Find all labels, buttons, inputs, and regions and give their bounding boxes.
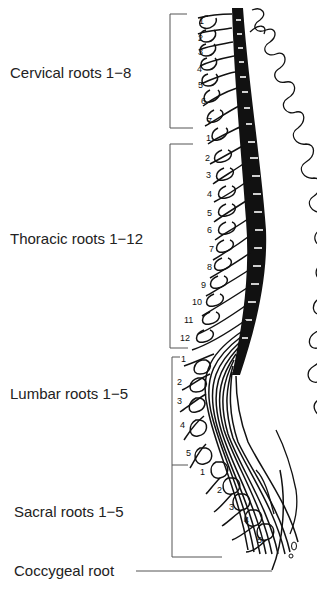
root-number: 3 [198, 47, 203, 57]
root-number: 4 [207, 189, 212, 199]
root-number: 2 [217, 485, 222, 495]
root-number: 10 [192, 297, 202, 307]
root-number: 2 [177, 377, 182, 387]
root-number: 5 [198, 80, 203, 90]
root-number: 12 [180, 333, 190, 343]
coccyx-oval [292, 542, 297, 550]
root-number: 2 [205, 153, 210, 163]
root-number: 9 [201, 280, 206, 290]
root-number: 1 [206, 133, 211, 143]
bracket-cervical [170, 14, 193, 128]
root-number: 6 [207, 225, 212, 235]
root-number: 11 [184, 315, 193, 325]
root-number: 1 [200, 467, 205, 477]
sacral-roots [206, 462, 274, 552]
spinal-cord-diagram: 1 2 3 4 5 6 7 1 2 3 4 5 6 7 8 9 10 11 12 [0, 0, 317, 589]
root-number: 3 [229, 502, 234, 512]
thoracic-root-numbers: 2 3 4 5 6 7 8 9 10 11 12 [180, 153, 214, 343]
root-number: 5 [207, 208, 212, 218]
root-number: 1 [199, 16, 204, 26]
root-number: 5 [186, 448, 191, 458]
root-number: 4 [197, 64, 202, 74]
root-number: 5 [257, 535, 262, 545]
cauda-equina [205, 330, 298, 554]
root-number: 3 [177, 396, 182, 406]
root-number: 4 [180, 420, 185, 430]
root-number: 7 [209, 244, 214, 254]
root-number: 7 [207, 116, 212, 126]
coccyx-dot [289, 554, 293, 558]
root-number: 3 [206, 170, 211, 180]
root-number: 8 [207, 262, 212, 272]
root-number: 1 [181, 354, 186, 364]
root-number: 2 [198, 33, 203, 43]
root-number: 4 [244, 515, 249, 525]
root-number: 6 [201, 96, 206, 106]
